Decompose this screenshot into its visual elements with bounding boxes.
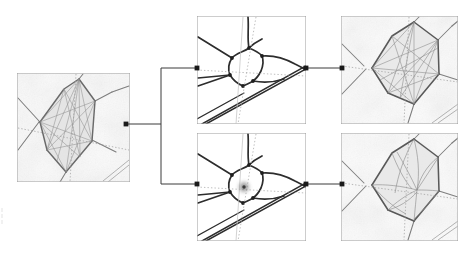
topology-bottom-content — [197, 133, 306, 241]
result-bottom-content — [341, 133, 458, 241]
topology-top-input-node[interactable] — [195, 66, 200, 71]
result-top-content — [341, 16, 458, 124]
source-cell-panel[interactable] — [17, 73, 130, 182]
figure-svg — [0, 0, 471, 254]
topology-bottom-panel[interactable] — [197, 133, 306, 241]
topology-bottom-output-node[interactable] — [304, 182, 309, 187]
result-bottom-panel[interactable] — [341, 133, 458, 241]
centroid-marker-icon — [239, 182, 248, 191]
topology-top-content — [197, 16, 306, 124]
source-output-node[interactable] — [124, 122, 129, 127]
result-bottom-input-node[interactable] — [340, 182, 345, 187]
topology-bottom-input-node[interactable] — [195, 182, 200, 187]
topology-top-panel[interactable] — [197, 16, 306, 124]
topology-top-output-node[interactable] — [304, 66, 309, 71]
result-top-input-node[interactable] — [340, 66, 345, 71]
margin-artifact — [1, 208, 3, 224]
figure-canvas — [0, 0, 471, 254]
source-cell-content — [17, 73, 130, 182]
result-top-panel[interactable] — [341, 16, 458, 124]
